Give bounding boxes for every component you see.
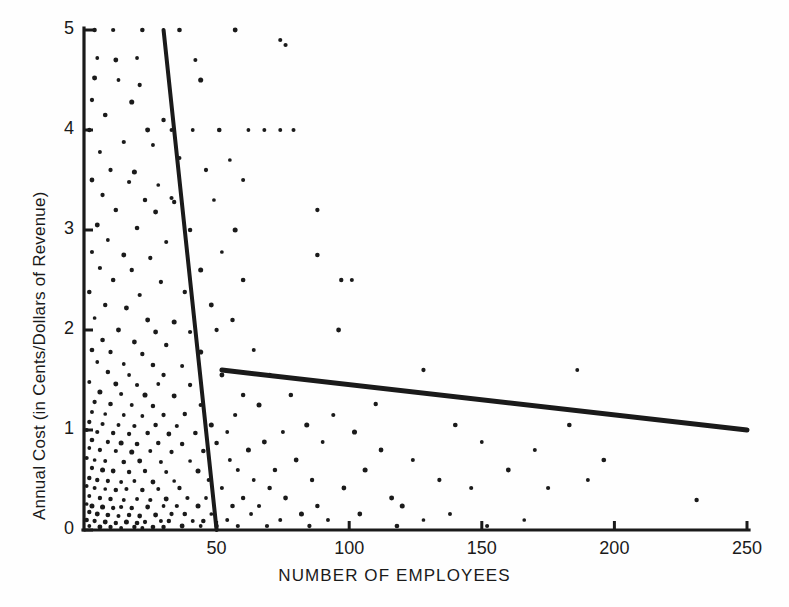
x-tick-label: 250 (717, 538, 777, 559)
data-point (153, 513, 158, 518)
data-point (103, 487, 107, 491)
data-point (220, 486, 224, 490)
data-point (694, 498, 698, 502)
data-point (289, 393, 294, 398)
data-point (132, 479, 136, 483)
data-point (95, 56, 99, 60)
data-point (114, 449, 118, 453)
data-point (198, 267, 203, 272)
data-point (103, 303, 107, 307)
data-point (437, 478, 441, 482)
data-point (145, 128, 150, 133)
data-point (257, 504, 261, 508)
data-point (453, 423, 458, 428)
data-point (217, 128, 222, 133)
data-point (156, 382, 160, 386)
data-point (111, 28, 115, 32)
data-point (191, 519, 195, 523)
data-point (124, 519, 129, 524)
data-point (98, 448, 102, 452)
data-point (241, 278, 246, 283)
x-axis-title: NUMBER OF EMPLOYEES (0, 566, 789, 586)
data-point (278, 128, 282, 132)
data-point (201, 449, 206, 454)
data-point (113, 382, 118, 387)
data-point (108, 497, 112, 501)
data-point (252, 478, 256, 482)
data-point (119, 526, 123, 530)
data-point (196, 468, 201, 473)
data-point (151, 363, 156, 368)
data-point (90, 178, 95, 183)
data-point (95, 512, 100, 517)
data-point (137, 514, 142, 519)
data-point (122, 413, 126, 417)
data-point (127, 432, 131, 436)
x-tick-label: 50 (187, 538, 247, 559)
data-point (87, 524, 91, 528)
data-point (84, 518, 89, 523)
data-point (85, 484, 89, 488)
data-point (114, 208, 119, 213)
data-point (151, 143, 155, 147)
data-point (233, 227, 238, 232)
data-point (304, 422, 309, 427)
data-point (246, 448, 251, 453)
data-point (108, 168, 112, 172)
data-point (249, 512, 253, 516)
data-point (180, 442, 185, 447)
data-point (228, 158, 232, 162)
data-point (90, 348, 95, 353)
data-point (209, 303, 214, 308)
data-point (87, 380, 91, 384)
data-point (281, 430, 285, 434)
data-point (89, 504, 94, 509)
data-point (106, 238, 110, 242)
data-point (469, 486, 473, 490)
data-point (273, 468, 278, 473)
data-point (153, 423, 158, 428)
data-point (127, 373, 131, 377)
data-point (106, 513, 111, 518)
data-point (204, 168, 208, 172)
data-point (130, 506, 134, 510)
data-point (241, 496, 245, 500)
data-point (100, 338, 105, 343)
data-point (169, 450, 173, 454)
data-point (90, 98, 94, 102)
data-point (114, 488, 118, 492)
data-point (116, 328, 121, 333)
data-point (101, 422, 105, 426)
data-point (283, 496, 288, 501)
data-point (135, 56, 139, 60)
data-point (198, 77, 203, 82)
data-point (92, 400, 96, 404)
data-point (100, 504, 105, 509)
data-point (92, 519, 96, 523)
data-point (85, 456, 89, 460)
data-point (93, 458, 97, 462)
data-point (140, 488, 145, 493)
data-point (138, 293, 142, 297)
data-point (204, 496, 208, 500)
data-point (331, 413, 335, 417)
data-point (85, 428, 89, 432)
data-point (164, 240, 168, 244)
data-point (169, 512, 173, 516)
data-point (480, 440, 484, 444)
data-point (148, 449, 152, 453)
data-point (374, 402, 378, 406)
data-point (236, 524, 240, 528)
data-point (448, 512, 452, 516)
x-tick-label: 150 (452, 538, 512, 559)
data-point (252, 348, 256, 352)
data-point (212, 198, 216, 202)
data-point (122, 498, 126, 502)
data-point (151, 404, 155, 408)
data-point (135, 497, 139, 501)
data-point (90, 410, 94, 414)
data-point (321, 440, 325, 444)
data-point (193, 58, 197, 62)
data-point (241, 178, 245, 182)
data-point (169, 196, 173, 200)
